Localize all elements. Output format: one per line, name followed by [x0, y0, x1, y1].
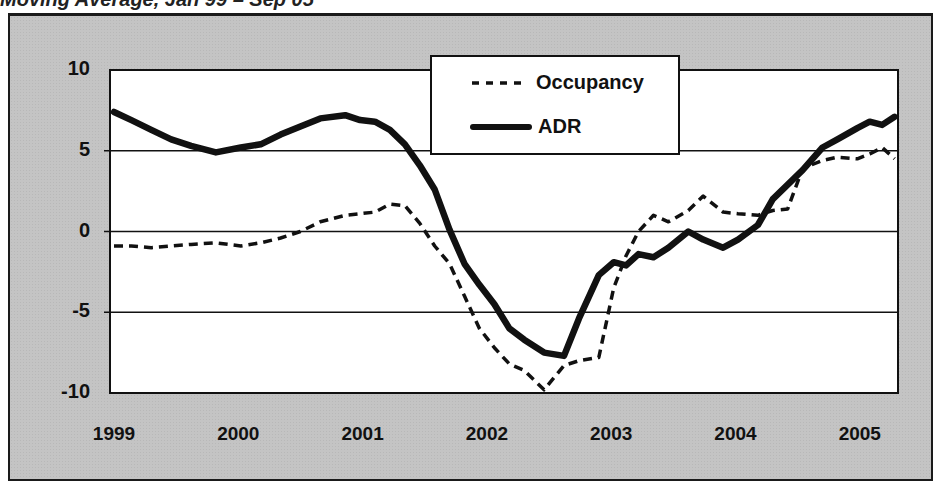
x-tick-label: 2002 — [447, 423, 527, 445]
legend-item-adr: ADR — [470, 115, 581, 138]
x-tick-label: 1999 — [74, 423, 154, 445]
y-tick-label: -5 — [40, 299, 90, 322]
y-tick-label: -10 — [40, 380, 90, 403]
x-tick-label: 2004 — [696, 423, 776, 445]
x-tick-label: 2005 — [820, 423, 900, 445]
x-tick-label: 2000 — [198, 423, 278, 445]
legend-label-occupancy: Occupancy — [536, 71, 644, 94]
x-tick-label: 2003 — [571, 423, 651, 445]
x-tick-label: 2001 — [323, 423, 403, 445]
y-tick-label: 5 — [40, 138, 90, 161]
legend-item-occupancy: Occupancy — [470, 71, 644, 94]
dashed-line-icon — [470, 78, 530, 88]
legend: Occupancy ADR — [430, 55, 680, 155]
solid-line-icon — [470, 121, 532, 133]
legend-label-adr: ADR — [538, 115, 581, 138]
y-tick-label: 10 — [40, 57, 90, 80]
y-tick-label: 0 — [40, 219, 90, 242]
